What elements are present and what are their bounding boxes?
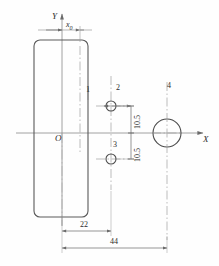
part-label-4: 4 <box>167 82 171 90</box>
dimension-44-label: 44 <box>110 238 118 246</box>
technical-drawing-canvas: Y X O x0 1 2 3 4 10.5 10.5 22 44 <box>0 0 219 266</box>
dimension-22 <box>62 191 111 236</box>
part-4-large-circle <box>152 82 182 240</box>
part-label-3: 3 <box>113 141 117 149</box>
axis-group <box>16 14 203 226</box>
dimension-10-5-lower-label: 10.5 <box>134 148 142 162</box>
x0-subscript: 0 <box>70 25 73 31</box>
origin-label: O <box>55 134 62 143</box>
y-axis-label: Y <box>52 12 57 21</box>
dimension-22-label: 22 <box>80 221 88 229</box>
dimension-x0-label: x0 <box>66 21 73 31</box>
drawing-vector-layer <box>0 0 219 266</box>
x-axis-label: X <box>203 135 209 144</box>
part-label-1: 1 <box>86 86 90 94</box>
dimension-10-5-lower <box>116 133 134 159</box>
part-label-2: 2 <box>116 84 120 92</box>
dimension-10-5-upper-label: 10.5 <box>134 115 142 129</box>
